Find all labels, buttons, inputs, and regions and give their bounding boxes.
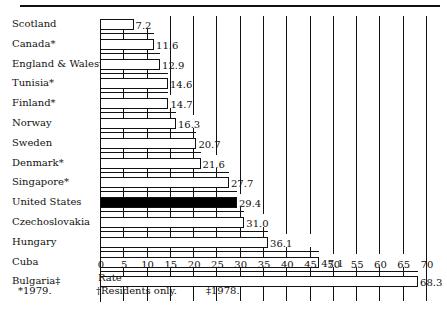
x-tick xyxy=(310,287,311,301)
value-label: 12.9 xyxy=(162,60,184,72)
x-tick-label: 30 xyxy=(231,259,251,270)
tick-segment xyxy=(123,247,124,257)
gridline-segment xyxy=(263,36,264,56)
gridline-segment xyxy=(356,36,357,56)
tick-segment xyxy=(147,88,148,98)
tick-segment xyxy=(170,128,171,138)
gridline-segment xyxy=(216,75,217,95)
gridline-segment xyxy=(426,214,427,234)
gridline-segment xyxy=(333,135,334,155)
tick-segment xyxy=(216,187,217,197)
row-baseline xyxy=(100,152,201,153)
tick-segment xyxy=(123,207,124,217)
gridline-segment xyxy=(310,194,311,214)
tick-segment xyxy=(240,247,241,257)
gridline-segment xyxy=(286,194,287,214)
x-tick-label: 0 xyxy=(91,259,111,270)
gridline-segment xyxy=(333,115,334,135)
gridline-segment xyxy=(240,36,241,56)
gridline-segment xyxy=(333,214,334,234)
row-baseline xyxy=(100,112,176,113)
row-baseline xyxy=(100,172,229,173)
x-tick-label: 25 xyxy=(207,259,227,270)
x-tick xyxy=(240,287,241,301)
tick-segment xyxy=(170,108,171,118)
x-tick-label: 70 xyxy=(417,259,437,270)
gridline-segment xyxy=(356,115,357,135)
gridline-segment xyxy=(356,56,357,76)
tick-segment xyxy=(216,227,217,237)
tick-segment xyxy=(123,49,124,59)
x-tick-label: 60 xyxy=(370,259,390,270)
category-label: Canada* xyxy=(12,38,55,50)
gridline-segment xyxy=(379,174,380,194)
gridline-segment xyxy=(240,95,241,115)
gridline-segment xyxy=(263,75,264,95)
tick-segment xyxy=(240,227,241,237)
row-baseline xyxy=(100,211,244,212)
footnote-1978: ‡1978. xyxy=(206,285,240,296)
category-label: Cuba xyxy=(12,256,38,268)
gridline-segment xyxy=(310,75,311,95)
x-tick xyxy=(193,287,194,301)
tick-segment xyxy=(147,187,148,197)
x-tick-label: 40 xyxy=(277,259,297,270)
gridline-segment xyxy=(193,16,194,36)
gridline-segment xyxy=(379,75,380,95)
gridline-segment xyxy=(310,214,311,234)
tick-segment xyxy=(147,49,148,59)
tick-segment xyxy=(193,227,194,237)
gridline-segment xyxy=(310,56,311,76)
gridline-segment xyxy=(310,135,311,155)
value-label: 36.1 xyxy=(270,238,292,250)
tick-segment xyxy=(147,168,148,178)
x-tick-label: 45 xyxy=(301,259,321,270)
gridline-segment xyxy=(426,36,427,56)
gridline-segment xyxy=(263,174,264,194)
gridline-segment xyxy=(403,75,404,95)
gridline-segment xyxy=(356,214,357,234)
gridline-segment xyxy=(356,174,357,194)
gridline-segment xyxy=(286,16,287,36)
footnote-1979: *1979. xyxy=(18,285,52,296)
category-label: Denmark* xyxy=(12,157,64,169)
gridline-segment xyxy=(263,115,264,135)
x-tick xyxy=(426,287,427,301)
x-tick-label: 15 xyxy=(161,259,181,270)
gridline-segment xyxy=(193,36,194,56)
bar xyxy=(100,98,168,109)
gridline-segment xyxy=(356,194,357,214)
value-label: 31.0 xyxy=(246,218,268,230)
gridline-segment xyxy=(333,95,334,115)
x-tick xyxy=(403,287,404,301)
gridline-segment xyxy=(333,174,334,194)
gridline-segment xyxy=(379,214,380,234)
gridline-segment xyxy=(403,135,404,155)
gridline-segment xyxy=(403,115,404,135)
gridline-segment xyxy=(333,56,334,76)
value-label: 21.6 xyxy=(203,159,225,171)
gridline-segment xyxy=(379,234,380,254)
tick-segment xyxy=(123,168,124,178)
gridline-segment xyxy=(403,16,404,36)
gridline-segment xyxy=(333,194,334,214)
tick-segment xyxy=(123,108,124,118)
x-tick-label: 50 xyxy=(324,259,344,270)
category-label: Tunisia* xyxy=(12,77,54,89)
category-label: Scotland xyxy=(12,18,57,30)
gridline-segment xyxy=(286,174,287,194)
tick-segment xyxy=(240,207,241,217)
category-label: Finland* xyxy=(12,97,56,109)
category-label: Singapore* xyxy=(12,176,69,188)
gridline-segment xyxy=(379,155,380,175)
tick-segment xyxy=(123,227,124,237)
row-baseline xyxy=(100,231,268,232)
x-tick xyxy=(356,287,357,301)
gridline-segment xyxy=(286,115,287,135)
x-axis-title: Rate xyxy=(98,272,122,283)
value-label: 27.7 xyxy=(231,178,253,190)
gridline-segment xyxy=(403,194,404,214)
tick-segment xyxy=(123,128,124,138)
gridline-segment xyxy=(379,36,380,56)
gridline-segment xyxy=(310,36,311,56)
